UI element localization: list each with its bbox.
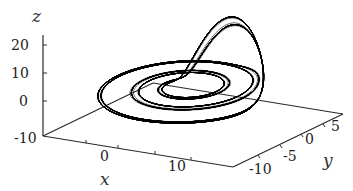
axes-frame <box>43 35 343 167</box>
z-ticks: 20 10 0 -10 <box>11 37 47 146</box>
attractor-trajectory <box>98 17 264 124</box>
z-tick-label: 20 <box>11 37 29 53</box>
z-axis-label: z <box>31 6 42 26</box>
x-axis-label: x <box>100 169 110 189</box>
z-tick-label: 0 <box>19 93 28 109</box>
back-y-axis-line <box>43 83 153 136</box>
x-ticks: 0 10 x <box>86 140 191 189</box>
z-tick-label: 10 <box>11 65 29 81</box>
y-tick-label: -10 <box>249 161 272 177</box>
z-tick-label: -10 <box>14 130 37 146</box>
x-axis-line <box>43 136 233 167</box>
y-tick-label: 5 <box>331 118 340 134</box>
y-tick-label: 0 <box>305 131 314 147</box>
y-tick-label: -5 <box>283 148 297 164</box>
y-ticks: -10 -5 0 5 y <box>249 118 340 177</box>
x-tick-label: 10 <box>168 158 186 174</box>
y-axis-label: y <box>322 150 333 170</box>
x-tick-label: 0 <box>100 148 109 164</box>
attractor-3d-plot: 20 10 0 -10 0 10 x -10 -5 0 5 y z <box>0 0 353 191</box>
